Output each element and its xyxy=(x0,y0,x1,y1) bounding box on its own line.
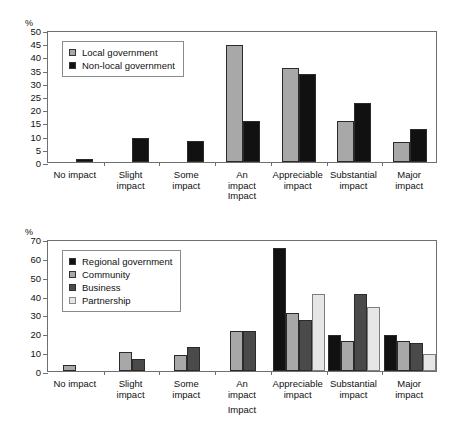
y-axis-tick-label: 0 xyxy=(19,158,41,169)
legend-swatch-icon xyxy=(69,271,76,278)
bar[interactable] xyxy=(273,248,286,371)
y-axis-tick-label: 45 xyxy=(19,39,41,50)
legend-label: Business xyxy=(82,281,121,294)
x-axis-title-top: Impact xyxy=(47,190,437,201)
y-axis-tick-label: 30 xyxy=(19,79,41,90)
bar[interactable] xyxy=(299,74,316,162)
bar[interactable] xyxy=(337,121,354,162)
legend-item[interactable]: Business xyxy=(69,281,172,294)
bar[interactable] xyxy=(384,335,397,371)
legend-item[interactable]: Community xyxy=(69,268,172,281)
bar[interactable] xyxy=(132,359,145,371)
x-axis-tick xyxy=(327,162,328,166)
x-axis-tick xyxy=(215,371,216,375)
y-axis-tick-label: 10 xyxy=(19,132,41,143)
y-axis-tick-label: 25 xyxy=(19,92,41,103)
bar[interactable] xyxy=(187,347,200,371)
legend-label: Regional government xyxy=(82,255,172,268)
legend-swatch-icon xyxy=(69,284,76,291)
bar-group xyxy=(215,241,271,371)
legend-bottom: Regional governmentCommunityBusinessPart… xyxy=(62,250,181,312)
x-axis-tick xyxy=(271,162,272,166)
chart-bottom: % 010203040506070 Regional governmentCom… xyxy=(0,208,452,426)
y-axis-tick-label: 70 xyxy=(19,235,41,246)
x-axis-tick xyxy=(104,162,105,166)
bar[interactable] xyxy=(312,294,325,371)
bar[interactable] xyxy=(187,141,204,162)
y-axis-tick-label: 50 xyxy=(19,26,41,37)
y-axis-tick-label: 35 xyxy=(19,66,41,77)
legend-label: Community xyxy=(82,268,130,281)
y-axis-tick xyxy=(43,164,48,165)
y-axis-tick xyxy=(43,373,48,374)
bar[interactable] xyxy=(63,365,76,371)
bar[interactable] xyxy=(354,294,367,371)
y-axis-tick-label: 30 xyxy=(19,310,41,321)
x-axis-tick xyxy=(215,162,216,166)
y-axis-tick-label: 5 xyxy=(19,145,41,156)
y-axis-tick-label: 0 xyxy=(19,367,41,378)
y-axis-tick-label: 20 xyxy=(19,105,41,116)
bar[interactable] xyxy=(76,159,93,162)
legend-swatch-icon xyxy=(69,258,76,265)
legend-label: Local government xyxy=(82,46,158,59)
x-axis-tick xyxy=(382,162,383,166)
bar[interactable] xyxy=(397,341,410,371)
legend-top: Local governmentNon-local government xyxy=(62,41,184,77)
chart-top: % 05101520253035404550 Local governmentN… xyxy=(0,0,452,212)
legend-item[interactable]: Non-local government xyxy=(69,59,175,72)
legend-swatch-icon xyxy=(69,297,76,304)
x-axis-tick xyxy=(159,162,160,166)
x-axis-tick-label: Major impact xyxy=(375,378,443,400)
bar[interactable] xyxy=(410,343,423,371)
bar[interactable] xyxy=(299,320,312,371)
bar[interactable] xyxy=(393,142,410,162)
x-axis-tick-label: Major impact xyxy=(375,169,443,191)
bar[interactable] xyxy=(367,307,380,371)
y-axis-tick-label: 20 xyxy=(19,329,41,340)
legend-swatch-icon xyxy=(69,49,76,56)
bar-group xyxy=(215,32,271,162)
y-axis-tick-label: 50 xyxy=(19,273,41,284)
x-axis-tick xyxy=(382,371,383,375)
legend-item[interactable]: Regional government xyxy=(69,255,172,268)
x-axis-tick xyxy=(327,371,328,375)
legend-label: Non-local government xyxy=(82,59,175,72)
bar[interactable] xyxy=(286,313,299,371)
bar[interactable] xyxy=(354,103,371,162)
bar[interactable] xyxy=(328,335,341,371)
x-axis-title-bottom: Impact xyxy=(47,404,437,415)
chart-page: % 05101520253035404550 Local governmentN… xyxy=(0,0,452,426)
legend-label: Partnership xyxy=(82,294,131,307)
bar[interactable] xyxy=(119,352,132,371)
x-axis-tick xyxy=(104,371,105,375)
legend-item[interactable]: Local government xyxy=(69,46,175,59)
y-axis-tick-label: 60 xyxy=(19,254,41,265)
bar[interactable] xyxy=(410,129,427,162)
legend-item[interactable]: Partnership xyxy=(69,294,172,307)
x-axis-tick xyxy=(159,371,160,375)
y-axis-tick-label: 10 xyxy=(19,348,41,359)
y-axis-tick-label: 40 xyxy=(19,292,41,303)
bar-group xyxy=(271,241,327,371)
bar[interactable] xyxy=(341,341,354,371)
y-axis-tick-label: 15 xyxy=(19,118,41,129)
x-axis-tick xyxy=(271,371,272,375)
bar[interactable] xyxy=(174,355,187,371)
y-axis-tick-label: 40 xyxy=(19,52,41,63)
bar[interactable] xyxy=(243,121,260,162)
bar[interactable] xyxy=(423,354,436,371)
bar-group xyxy=(327,32,383,162)
legend-swatch-icon xyxy=(69,62,76,69)
bar-group xyxy=(271,32,327,162)
bar-group xyxy=(382,32,438,162)
bar[interactable] xyxy=(226,45,243,162)
bar-group xyxy=(382,241,438,371)
bar[interactable] xyxy=(282,68,299,162)
bar[interactable] xyxy=(132,138,149,162)
bar[interactable] xyxy=(243,331,256,371)
bar-group xyxy=(327,241,383,371)
bar[interactable] xyxy=(230,331,243,371)
